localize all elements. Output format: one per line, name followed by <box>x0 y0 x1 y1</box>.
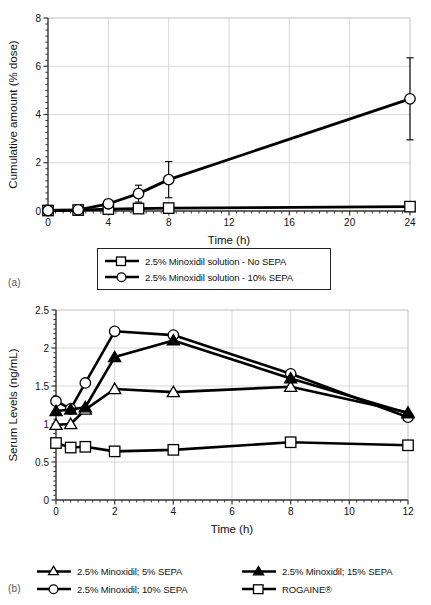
data-point-marker <box>405 94 415 104</box>
data-point-marker <box>403 440 413 450</box>
panel-a-letter: (a) <box>8 277 21 288</box>
y-axis-title: Serum Levels (ng/mL) <box>7 348 19 461</box>
legend-marker-open-circle <box>104 270 140 284</box>
svg-text:0: 0 <box>53 506 59 517</box>
svg-text:2: 2 <box>43 343 49 354</box>
data-point-marker <box>109 326 119 336</box>
legend-marker-filled-triangle <box>241 564 277 578</box>
gridlines <box>56 310 408 500</box>
svg-text:2: 2 <box>35 157 41 168</box>
data-point-marker <box>163 203 173 213</box>
svg-text:8: 8 <box>288 506 294 517</box>
svg-text:0: 0 <box>43 495 49 506</box>
legend-item: 2.5% Minoxidil; 10% SEPA <box>36 580 241 598</box>
svg-text:12: 12 <box>402 506 414 517</box>
data-point-marker <box>80 378 90 388</box>
chart-a-legend: 2.5% Minoxidil solution - No SEPA 2.5% M… <box>97 248 331 290</box>
svg-text:6: 6 <box>229 506 235 517</box>
legend-item: 2.5% Minoxidil; 5% SEPA <box>36 562 241 580</box>
x-axis-title: Time (h) <box>208 234 251 246</box>
legend-item: ROGAINE® <box>241 580 428 598</box>
svg-text:12: 12 <box>223 217 235 228</box>
svg-text:4: 4 <box>106 217 112 228</box>
legend-item: 2.5% Minoxidil; 15% SEPA <box>241 562 428 580</box>
legend-item-label: ROGAINE® <box>282 584 332 595</box>
data-point-marker <box>43 205 53 215</box>
legend-marker-open-circle <box>36 582 72 596</box>
legend-item-label: 2.5% Minoxidil; 5% SEPA <box>77 566 182 577</box>
tick-labels: 02468101200.511.522.5 <box>35 305 414 517</box>
data-point-marker <box>163 174 173 184</box>
svg-text:0: 0 <box>35 206 41 217</box>
svg-text:8: 8 <box>166 217 172 228</box>
x-axis-title: Time (h) <box>211 523 254 535</box>
data-point-marker <box>285 437 295 447</box>
y-axis-title: Cumulative amount (% dose) <box>7 40 19 188</box>
data-point-marker <box>73 205 83 215</box>
chart-b-svg: 02468101200.511.522.5Time (h)Serum Level… <box>0 292 431 562</box>
svg-text:2: 2 <box>112 506 118 517</box>
gridlines <box>48 18 410 211</box>
svg-text:16: 16 <box>284 217 296 228</box>
svg-text:24: 24 <box>404 217 416 228</box>
svg-text:4: 4 <box>171 506 177 517</box>
svg-text:10: 10 <box>344 506 356 517</box>
tick-labels: 0481216202402468 <box>35 13 416 228</box>
data-point-marker <box>405 201 415 211</box>
svg-text:8: 8 <box>35 13 41 24</box>
data-point-marker <box>133 203 143 213</box>
data-point-marker <box>133 188 143 198</box>
legend-marker-open-square <box>241 582 277 596</box>
svg-text:2.5: 2.5 <box>35 305 49 316</box>
legend-item: 2.5% Minoxidil solution - No SEPA <box>104 253 324 269</box>
svg-text:0: 0 <box>45 217 51 228</box>
legend-marker-open-square <box>104 254 140 268</box>
data-point-marker <box>51 438 61 448</box>
svg-text:4: 4 <box>35 109 41 120</box>
data-point-marker <box>65 442 75 452</box>
svg-text:20: 20 <box>344 217 356 228</box>
legend-item-label: 2.5% Minoxidil solution - 10% SEPA <box>145 272 293 283</box>
legend-item-label: 2.5% Minoxidil; 15% SEPA <box>282 566 392 577</box>
svg-text:6: 6 <box>35 61 41 72</box>
legend-marker-open-triangle <box>36 564 72 578</box>
svg-text:0.5: 0.5 <box>35 457 49 468</box>
data-point-marker <box>80 442 90 452</box>
svg-text:1: 1 <box>43 419 49 430</box>
legend-item: 2.5% Minoxidil solution - 10% SEPA <box>104 269 324 285</box>
chart-b-legend: 2.5% Minoxidil; 5% SEPA 2.5% Minoxidil; … <box>36 562 428 600</box>
legend-item-label: 2.5% Minoxidil; 10% SEPA <box>77 584 187 595</box>
tick-marks <box>52 310 409 505</box>
svg-text:1.5: 1.5 <box>35 381 49 392</box>
panel-b-letter: (b) <box>8 583 21 594</box>
data-point-marker <box>109 446 119 456</box>
data-point-marker <box>168 445 178 455</box>
chart-panel-b: 02468101200.511.522.5Time (h)Serum Level… <box>0 292 431 605</box>
figure-container: 0481216202402468Time (h)Cumulative amoun… <box>0 0 431 605</box>
data-point-marker <box>103 199 113 209</box>
legend-item-label: 2.5% Minoxidil solution - No SEPA <box>145 256 286 267</box>
